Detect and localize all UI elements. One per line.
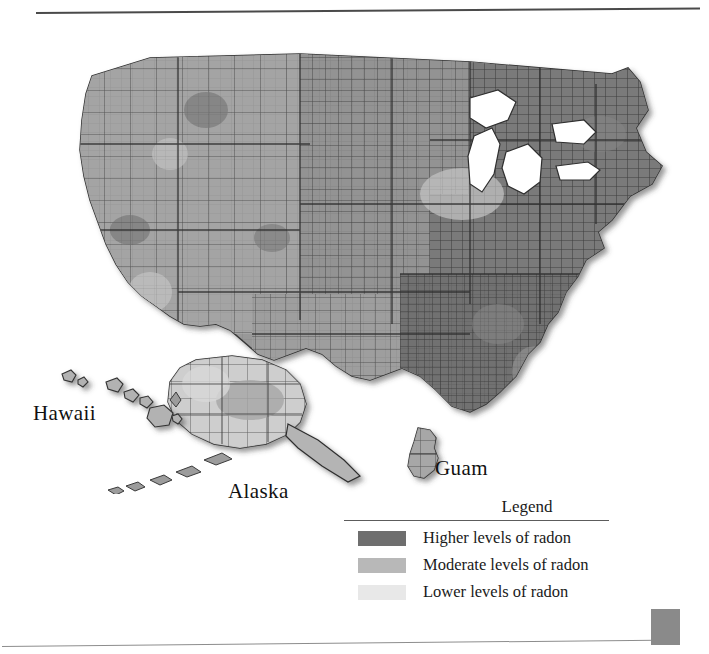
- legend-title: Legend: [344, 498, 644, 517]
- map-label-guam: Guam: [435, 456, 488, 481]
- legend-divider-rule: [344, 520, 609, 521]
- map-label-alaska: Alaska: [228, 479, 289, 504]
- legend-label-moderate: Moderate levels of radon: [423, 555, 588, 575]
- legend-items: Higher levels of radon Moderate levels o…: [344, 525, 644, 606]
- legend-label-higher: Higher levels of radon: [423, 528, 571, 548]
- legend-swatch-lower: [358, 585, 406, 600]
- legend-item-lower: Lower levels of radon: [344, 579, 644, 606]
- radon-map-figure: Hawaii Alaska Guam Legend Higher levels …: [0, 0, 709, 654]
- legend-swatch-higher: [358, 531, 406, 546]
- legend-item-moderate: Moderate levels of radon: [344, 552, 644, 579]
- legend-label-lower: Lower levels of radon: [423, 582, 568, 602]
- legend-item-higher: Higher levels of radon: [344, 525, 644, 552]
- map-label-hawaii: Hawaii: [33, 401, 96, 426]
- map-svg: [0, 24, 709, 494]
- corner-mark: [651, 609, 680, 645]
- bottom-divider-rule: [2, 640, 656, 648]
- top-divider-rule: [36, 8, 700, 14]
- legend-swatch-moderate: [358, 558, 406, 573]
- us-radon-map: Hawaii Alaska Guam: [0, 24, 709, 494]
- legend: Legend Higher levels of radon Moderate l…: [344, 498, 644, 606]
